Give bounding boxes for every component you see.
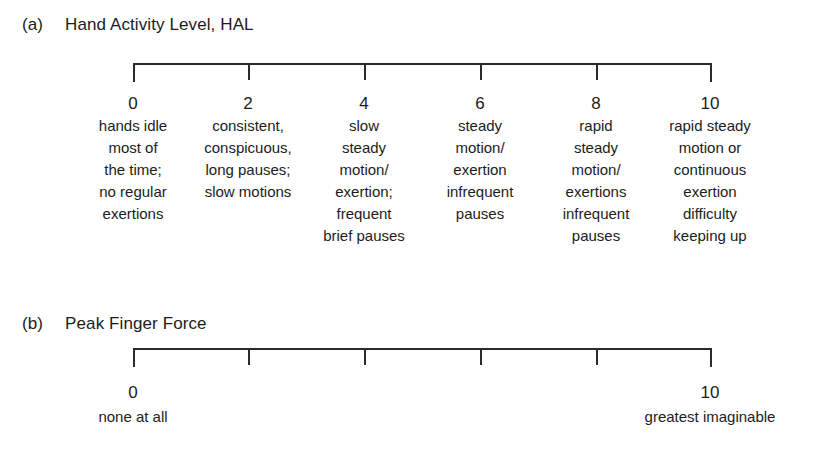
force-tick-2 <box>248 348 250 365</box>
hal-column-8-value: 8 <box>563 93 630 114</box>
hal-column-0-line-5: exertions <box>99 203 167 225</box>
hal-column-0-line-1: hands idle <box>99 115 167 137</box>
force-tick-10 <box>710 348 712 367</box>
hal-column-10-value: 10 <box>669 93 751 114</box>
hal-tick-6 <box>480 63 482 80</box>
hal-column-6-line-5: pauses <box>447 203 514 225</box>
hal-column-2: 2 consistent, conspicuous, long pauses; … <box>204 93 292 203</box>
force-anchor-low-label: none at all <box>98 406 167 428</box>
hal-tick-2 <box>248 63 250 80</box>
hal-column-10-description: rapid steady motion or continuous exerti… <box>669 115 751 247</box>
hal-scale-line <box>133 63 712 65</box>
hal-column-2-line-4: slow motions <box>204 181 292 203</box>
hal-column-2-value: 2 <box>204 93 292 114</box>
hal-column-6-description: steady motion/ exertion infrequent pause… <box>447 115 514 225</box>
hal-column-6-line-3: exertion <box>447 159 514 181</box>
hal-column-4-description: slow steady motion/ exertion; frequent b… <box>323 115 405 247</box>
hal-column-10-line-4: exertion <box>669 181 751 203</box>
hal-column-0-line-4: no regular <box>99 181 167 203</box>
hal-scale-bar <box>133 63 712 85</box>
hal-column-6-line-1: steady <box>447 115 514 137</box>
hal-column-8-line-4: exertions <box>563 181 630 203</box>
hal-column-8: 8 rapid steady motion/ exertions infrequ… <box>563 93 630 247</box>
hal-column-2-line-3: long pauses; <box>204 159 292 181</box>
hal-column-10-line-6: keeping up <box>669 225 751 247</box>
hal-column-6-line-2: motion/ <box>447 137 514 159</box>
hal-tick-8 <box>596 63 598 80</box>
hal-column-0: 0 hands idle most of the time; no regula… <box>99 93 167 225</box>
hal-column-4-line-6: brief pauses <box>323 225 405 247</box>
hal-column-8-line-3: motion/ <box>563 159 630 181</box>
hal-column-0-line-2: most of <box>99 137 167 159</box>
hal-column-4-value: 4 <box>323 93 405 114</box>
hal-column-4-line-5: frequent <box>323 203 405 225</box>
force-tick-6 <box>480 348 482 365</box>
force-anchor-high-value: 10 <box>645 382 776 403</box>
hal-column-10: 10 rapid steady motion or continuous exe… <box>669 93 751 247</box>
force-scale-bar <box>133 348 712 370</box>
force-anchor-high-label: greatest imaginable <box>645 406 776 428</box>
hal-column-10-line-1: rapid steady <box>669 115 751 137</box>
hal-tick-0 <box>133 63 135 82</box>
hal-column-8-line-5: infrequent <box>563 203 630 225</box>
hal-column-0-description: hands idle most of the time; no regular … <box>99 115 167 225</box>
hal-tick-4 <box>364 63 366 80</box>
hal-column-2-line-1: consistent, <box>204 115 292 137</box>
hal-column-4: 4 slow steady motion/ exertion; frequent… <box>323 93 405 247</box>
panel-b-heading: (b) Peak Finger Force <box>22 314 207 334</box>
hal-column-10-line-2: motion or <box>669 137 751 159</box>
force-tick-4 <box>364 348 366 365</box>
force-anchor-high: 10 greatest imaginable <box>645 382 776 428</box>
hal-column-6: 6 steady motion/ exertion infrequent pau… <box>447 93 514 225</box>
force-anchor-low-value: 0 <box>98 382 167 403</box>
hal-column-10-line-5: difficulty <box>669 203 751 225</box>
hal-column-4-line-1: slow <box>323 115 405 137</box>
panel-a-heading: (a) Hand Activity Level, HAL <box>22 15 254 35</box>
force-scale-line <box>133 348 712 350</box>
force-tick-0 <box>133 348 135 367</box>
hal-column-10-line-3: continuous <box>669 159 751 181</box>
panel-b-title: Peak Finger Force <box>65 314 207 334</box>
panel-a-title: Hand Activity Level, HAL <box>65 15 254 35</box>
force-anchor-low: 0 none at all <box>98 382 167 428</box>
force-tick-8 <box>596 348 598 365</box>
hal-column-4-line-3: motion/ <box>323 159 405 181</box>
hal-column-4-line-4: exertion; <box>323 181 405 203</box>
panel-a-letter: (a) <box>22 15 43 35</box>
hal-column-8-line-2: steady <box>563 137 630 159</box>
hal-tick-10 <box>710 63 712 82</box>
hal-column-2-description: consistent, conspicuous, long pauses; sl… <box>204 115 292 203</box>
hal-column-6-value: 6 <box>447 93 514 114</box>
hal-column-0-value: 0 <box>99 93 167 114</box>
hal-column-8-line-1: rapid <box>563 115 630 137</box>
hal-column-8-line-6: pauses <box>563 225 630 247</box>
hal-column-2-line-2: conspicuous, <box>204 137 292 159</box>
hal-column-0-line-3: the time; <box>99 159 167 181</box>
hal-column-6-line-4: infrequent <box>447 181 514 203</box>
hal-column-8-description: rapid steady motion/ exertions infrequen… <box>563 115 630 247</box>
hal-column-4-line-2: steady <box>323 137 405 159</box>
panel-b-letter: (b) <box>22 314 43 334</box>
